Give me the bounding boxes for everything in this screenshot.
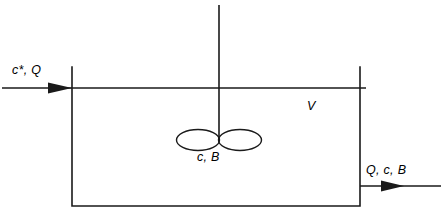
diagram-canvas	[0, 0, 444, 217]
arrow-right-icon	[48, 83, 72, 94]
inlet-stream	[2, 83, 72, 94]
cstr-diagram: c*, Q V c, B Q, c, B	[0, 0, 444, 217]
impeller-blade-left	[177, 130, 220, 151]
impeller-blade-right	[219, 130, 262, 151]
outlet-stream	[360, 181, 441, 192]
arrow-right-icon	[381, 181, 404, 192]
inlet-label: c*, Q	[12, 63, 41, 77]
contents-label: c, B	[197, 150, 220, 164]
volume-label: V	[307, 99, 316, 113]
outlet-label: Q, c, B	[366, 163, 406, 177]
